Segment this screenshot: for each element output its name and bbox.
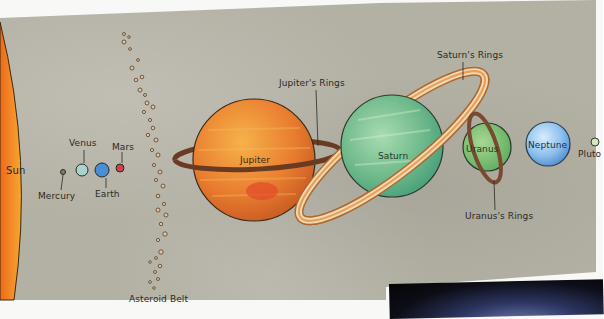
mercury <box>61 170 66 191</box>
mars <box>116 152 124 172</box>
jupiter-label: Jupiter <box>240 155 270 165</box>
mercury-label: Mercury <box>38 191 75 201</box>
space-photo-corner <box>389 279 604 319</box>
uranus-rings-pointer <box>494 180 495 210</box>
sun <box>0 22 21 300</box>
asteroid-belt-label: Asteroid Belt <box>129 294 188 304</box>
uranus-rings-label: Uranus's Rings <box>465 211 533 221</box>
pluto <box>591 138 599 146</box>
jupiter-rings-label: Jupiter's Rings <box>279 78 345 88</box>
uranus-label: Uranus <box>466 144 499 154</box>
venus-label: Venus <box>69 138 97 148</box>
saturn-rings-label: Saturn's Rings <box>437 50 503 60</box>
sun-label: Sun <box>6 165 25 176</box>
venus <box>76 150 88 176</box>
earth-label: Earth <box>95 189 120 199</box>
saturn-label: Saturn <box>378 151 408 161</box>
mars-label: Mars <box>112 142 134 152</box>
jupiter-rings-pointer <box>316 90 318 146</box>
neptune-label: Neptune <box>528 140 567 150</box>
asteroid-belt <box>122 33 168 290</box>
earth <box>95 163 109 188</box>
pluto-label: Pluto <box>578 149 601 159</box>
